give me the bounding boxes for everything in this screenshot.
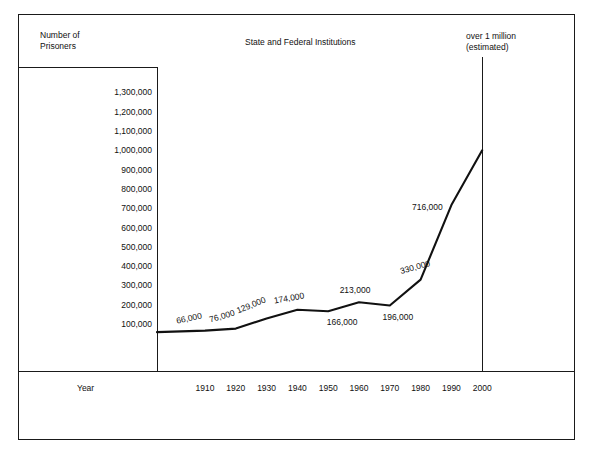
x-tick-label: 1920 xyxy=(226,383,245,393)
x-tick-label: 1930 xyxy=(257,383,276,393)
y-tick-label: 800,000 xyxy=(18,184,158,194)
x-tick-label: 1960 xyxy=(350,383,369,393)
y-tick-label: 500,000 xyxy=(18,242,158,252)
data-point-label: 213,000 xyxy=(340,285,371,295)
x-tick-label: 1940 xyxy=(288,383,307,393)
estimate-annotation: over 1 million (estimated) xyxy=(466,31,516,52)
x-tick-label: 1970 xyxy=(380,383,399,393)
y-tick-label: 1,100,000 xyxy=(18,126,158,136)
x-tick-label: 1910 xyxy=(196,383,215,393)
year-2000-marker-line xyxy=(482,57,483,372)
y-tick-label: 600,000 xyxy=(18,223,158,233)
y-tick-label: 1,000,000 xyxy=(18,145,158,155)
data-point-label: 196,000 xyxy=(382,312,413,322)
y-tick-label: 400,000 xyxy=(18,261,158,271)
x-tick-label: 2000 xyxy=(473,383,492,393)
y-tick-label: 1,300,000 xyxy=(18,87,158,97)
x-axis-title: Year xyxy=(77,383,94,393)
y-tick-label: 300,000 xyxy=(18,280,158,290)
y-tick-label: 200,000 xyxy=(18,300,158,310)
y-tick-label: 100,000 xyxy=(18,319,158,329)
data-point-label: 716,000 xyxy=(412,202,443,212)
x-tick-label: 1980 xyxy=(411,383,430,393)
data-point-label: 166,000 xyxy=(327,317,358,327)
chart-title: State and Federal Institutions xyxy=(245,37,356,47)
y-tick-label: 700,000 xyxy=(18,203,158,213)
chart-screenshot: Number of Prisoners State and Federal In… xyxy=(0,0,590,456)
x-tick-label: 1950 xyxy=(319,383,338,393)
x-tick-label: 1990 xyxy=(442,383,461,393)
y-tick-label: 1,200,000 xyxy=(18,107,158,117)
y-tick-label: 900,000 xyxy=(18,165,158,175)
y-axis-title: Number of Prisoners xyxy=(40,30,80,51)
